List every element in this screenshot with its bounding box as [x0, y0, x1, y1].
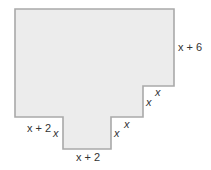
label-upper-step-side: x [145, 96, 152, 108]
label-stem-bottom: x + 2 [76, 151, 100, 163]
composite-figure-diagram: x + 6 x x x x x + 2 x x + 2 [0, 0, 211, 170]
label-lower-step-top: x [123, 118, 130, 130]
label-lower-step-side: x [113, 127, 120, 139]
label-left-shoulder: x + 2 [27, 122, 51, 134]
label-stem-left: x [52, 127, 59, 139]
label-upper-step-top: x [154, 86, 161, 98]
label-right-side: x + 6 [178, 41, 202, 53]
